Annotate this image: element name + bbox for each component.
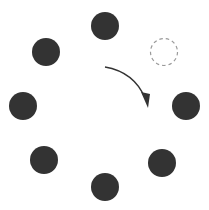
dot-bottom-right: [148, 149, 176, 177]
dot-top-left: [32, 38, 60, 66]
dot-bottom: [91, 173, 119, 201]
arrowhead-icon: [141, 92, 150, 108]
dot-left: [9, 92, 37, 120]
dot-right: [172, 92, 200, 120]
dot-top: [91, 12, 119, 40]
missing-dot-placeholder: [151, 39, 178, 66]
rotation-diagram: [0, 0, 209, 210]
curved-arrow-icon: [105, 67, 145, 98]
dot-group: [9, 12, 200, 201]
dot-bottom-left: [30, 146, 58, 174]
